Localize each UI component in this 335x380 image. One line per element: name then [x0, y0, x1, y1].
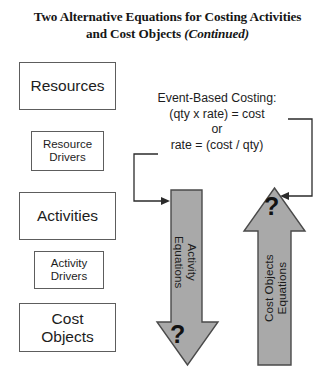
activity-equations-question-mark: ? — [170, 322, 185, 347]
activity-equations-label-line-1: Activity — [186, 243, 199, 281]
left-connector-line — [134, 154, 163, 201]
activity-equations-label-line-2: Equations — [173, 236, 186, 288]
figure-costing-equations: Two Alternative Equations for Costing Ac… — [0, 0, 335, 380]
right-connector-line — [287, 119, 312, 196]
activity-equations-arrow-label: Activity Equations — [173, 202, 199, 322]
cost-objects-equations-arrow-label: Cost Objects Equations — [262, 223, 288, 353]
cost-objects-equations-label-line-2: Equations — [275, 262, 288, 314]
cost-objects-equations-question-mark: ? — [264, 194, 279, 219]
left-connector-arrowhead — [161, 197, 170, 205]
cost-objects-equations-label-line-1: Cost Objects — [262, 254, 275, 322]
